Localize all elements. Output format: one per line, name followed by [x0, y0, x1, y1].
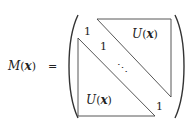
lhs-label: M(x): [7, 59, 36, 73]
diag-entry-last: 1: [156, 100, 163, 113]
diag-dots: ⋱: [117, 62, 128, 75]
equation-figure: M(x) = 1 1 ⋱ 1 U(x) U(x): [0, 0, 192, 121]
right-paren: [175, 15, 184, 118]
upper-block-label: U(x): [132, 27, 158, 41]
lower-block-label: U(x): [86, 93, 112, 107]
diag-entry-2: 1: [100, 40, 107, 53]
diag-entry-1: 1: [84, 25, 91, 38]
equals-sign: =: [48, 60, 57, 73]
left-paren: [69, 15, 78, 118]
